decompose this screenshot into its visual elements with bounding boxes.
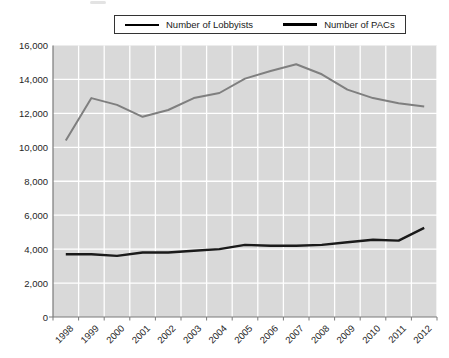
x-tick-label: 2004	[206, 323, 229, 346]
x-tick-label: 2005	[232, 323, 255, 346]
y-tick-label: 10,000	[19, 142, 48, 153]
y-tick-label: 6,000	[24, 210, 48, 221]
y-tick-label: 16,000	[19, 40, 48, 51]
legend-item-pacs: Number of PACs	[283, 19, 395, 30]
x-tick-label: 2008	[309, 323, 332, 346]
line-chart: 02,0004,0006,0008,00010,00012,00014,0001…	[0, 0, 449, 358]
x-tick-label: 2002	[155, 323, 178, 346]
y-tick-label: 0	[43, 312, 48, 323]
x-tick-label: 2010	[360, 323, 383, 346]
y-tick-label: 14,000	[19, 74, 48, 85]
x-tick-label: 2009	[334, 323, 357, 346]
x-tick-label: 2001	[129, 323, 152, 346]
x-tick-label: 2006	[257, 323, 280, 346]
pacs-line-swatch	[283, 23, 317, 26]
legend: Number of Lobbyists Number of PACs	[114, 15, 406, 34]
x-tick-label: 2012	[411, 323, 434, 346]
y-tick-label: 4,000	[24, 244, 48, 255]
y-tick-label: 8,000	[24, 176, 48, 187]
y-tick-label: 2,000	[24, 278, 48, 289]
x-tick-label: 1999	[78, 323, 101, 346]
legend-label-pacs: Number of PACs	[324, 19, 395, 30]
legend-label-lobbyists: Number of Lobbyists	[166, 19, 253, 30]
x-tick-label: 2000	[104, 323, 127, 346]
x-tick-label: 2011	[386, 323, 408, 345]
chart-canvas: Number of Lobbyists Number of PACs 02,00…	[0, 0, 449, 358]
x-tick-label: 2003	[181, 323, 204, 346]
y-tick-label: 12,000	[19, 108, 48, 119]
x-tick-label: 1998	[53, 323, 76, 346]
x-tick-label: 2007	[283, 323, 306, 346]
lobbyists-line-swatch	[125, 24, 159, 26]
legend-item-lobbyists: Number of Lobbyists	[125, 19, 253, 30]
